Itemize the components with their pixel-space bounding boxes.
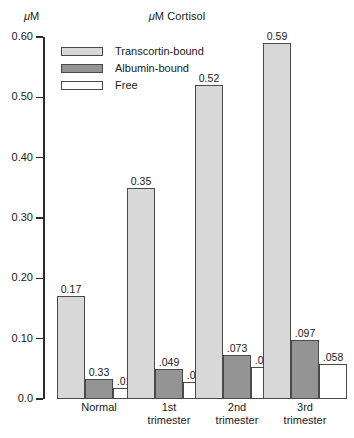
y-axis-tick — [36, 157, 43, 159]
bar-value-label: .073 — [214, 342, 260, 354]
bar-albumin — [291, 340, 319, 399]
y-axis-tick — [36, 217, 43, 219]
y-axis-tick-label: 0.20 — [1, 271, 33, 283]
y-axis-tick-label: 0.0 — [1, 392, 33, 404]
y-axis-tick-label: 0.40 — [1, 151, 33, 163]
legend-item: Albumin-bound — [61, 62, 241, 76]
y-axis-tick-label: 0.30 — [1, 211, 33, 223]
bar-free — [319, 364, 347, 399]
legend-swatch-albumin — [61, 64, 103, 73]
y-axis-tick-label: 0.10 — [1, 332, 33, 344]
y-axis-tick — [36, 278, 43, 280]
bar-value-label: 0.35 — [118, 175, 164, 187]
x-axis-group-label: 3rdtrimester — [251, 401, 354, 427]
bar-transcortin — [263, 43, 291, 399]
legend-label: Transcortin-bound — [115, 45, 204, 57]
bar-value-label: .049 — [146, 356, 192, 368]
y-axis-tick — [36, 398, 43, 400]
legend-label: Free — [115, 79, 138, 91]
bar-value-label: 0.59 — [254, 30, 300, 42]
legend-swatch-free — [61, 81, 103, 90]
chart-legend: Transcortin-boundAlbumin-boundFree — [61, 45, 241, 96]
bar-value-label: .058 — [310, 351, 354, 363]
y-axis-tick — [36, 338, 43, 340]
bar-transcortin — [57, 296, 85, 399]
bar-value-label: 0.17 — [48, 283, 94, 295]
legend-item: Transcortin-bound — [61, 45, 241, 59]
y-axis-tick — [36, 36, 43, 38]
legend-item: Free — [61, 79, 241, 93]
cortisol-bar-chart: μM μM Cortisol 0.600.500.400.300.200.100… — [0, 0, 354, 438]
group-label-line: 3rd — [251, 401, 354, 414]
y-axis-tick-label: 0.60 — [1, 30, 33, 42]
bar-group: 0.59.097.0583rdtrimester — [263, 37, 347, 399]
legend-label: Albumin-bound — [115, 62, 189, 74]
y-axis-tick — [36, 97, 43, 99]
y-axis-tick-label: 0.50 — [1, 90, 33, 102]
chart-title: μM Cortisol — [0, 10, 354, 22]
legend-swatch-transcortin — [61, 47, 103, 56]
group-label-line: trimester — [251, 414, 354, 427]
bar-value-label: .097 — [282, 327, 328, 339]
